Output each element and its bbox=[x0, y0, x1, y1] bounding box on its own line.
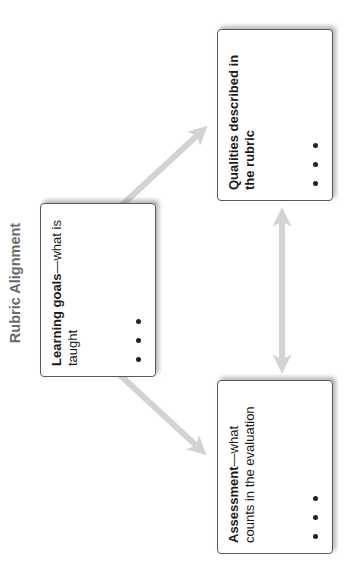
dot bbox=[313, 181, 318, 186]
ellipsis-dots bbox=[136, 319, 141, 362]
arrow-goals-to-assessment bbox=[120, 375, 201, 450]
learning-goals-text: Learning goals—what is taught bbox=[49, 212, 81, 366]
dot bbox=[136, 338, 141, 343]
diagram-canvas: Rubric Alignment Learning goals—what is … bbox=[0, 0, 343, 581]
ellipsis-dots bbox=[313, 143, 318, 186]
assessment-box: Assessment—what counts in the evaluation bbox=[217, 380, 333, 554]
learning-goals-label: Learning goals bbox=[49, 274, 64, 366]
qualities-box: Qualities described in the rubric bbox=[217, 29, 333, 201]
dot bbox=[313, 534, 318, 539]
dot bbox=[136, 319, 141, 324]
learning-goals-box: Learning goals—what is taught bbox=[40, 203, 156, 377]
dot bbox=[136, 357, 141, 362]
dot bbox=[313, 496, 318, 501]
dot bbox=[313, 143, 318, 148]
em-dash: — bbox=[49, 261, 64, 274]
assessment-text: Assessment—what counts in the evaluation bbox=[226, 389, 258, 543]
arrow-goals-to-qualities bbox=[122, 131, 202, 205]
dot bbox=[313, 515, 318, 520]
em-dash: — bbox=[226, 453, 241, 466]
assessment-label: Assessment bbox=[226, 466, 241, 543]
qualities-text: Qualities described in the rubric bbox=[226, 38, 258, 190]
dot bbox=[313, 162, 318, 167]
qualities-label: Qualities described in the rubric bbox=[226, 55, 257, 190]
ellipsis-dots bbox=[313, 496, 318, 539]
